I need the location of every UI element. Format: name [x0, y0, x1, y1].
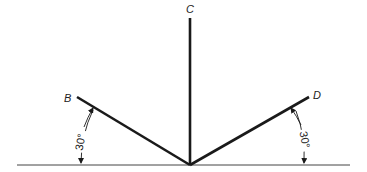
- angle-arc-right-top: [291, 108, 301, 125]
- segment-d: [190, 97, 309, 165]
- segment-b: [77, 97, 190, 165]
- label-b: B: [64, 92, 71, 104]
- label-d: D: [313, 89, 321, 101]
- label-c: C: [186, 3, 194, 15]
- geometry-diagram: B C D 30° 30°: [0, 0, 367, 172]
- angle-arc-left-top: [84, 108, 93, 127]
